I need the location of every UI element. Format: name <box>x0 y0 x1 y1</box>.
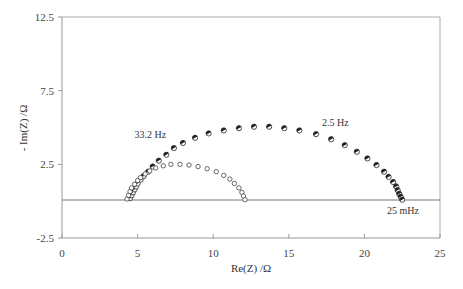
data-point <box>266 123 272 129</box>
data-point <box>147 169 151 173</box>
data-point <box>155 157 161 163</box>
data-point <box>243 197 247 201</box>
x-tick-label: 15 <box>283 247 295 259</box>
x-axis-label: Re(Z) /Ω <box>231 262 271 275</box>
data-point <box>205 167 209 171</box>
data-point <box>169 162 173 166</box>
data-point <box>312 131 318 137</box>
nyquist-chart: 12.57.52.5-2.5 0510152025 Re(Z) /Ω - Im(… <box>0 0 463 289</box>
data-point <box>341 142 347 148</box>
x-tick-label: 0 <box>59 247 65 259</box>
plot-frame <box>62 17 440 238</box>
data-point <box>129 186 133 190</box>
x-tick-label: 20 <box>359 247 371 259</box>
data-point <box>385 173 391 179</box>
data-point <box>250 123 256 129</box>
data-point <box>196 164 200 168</box>
data-point <box>154 166 158 170</box>
data-point <box>178 162 182 166</box>
data-point <box>281 125 287 131</box>
data-point <box>187 163 191 167</box>
data-points <box>125 123 405 202</box>
x-tick-label: 5 <box>135 247 141 259</box>
data-point <box>192 134 198 140</box>
data-point <box>170 145 176 151</box>
data-point <box>214 170 218 174</box>
y-tick-label: -2.5 <box>37 232 55 244</box>
y-tick-label: 7.5 <box>40 85 54 97</box>
data-point <box>228 177 232 181</box>
data-point <box>235 125 241 131</box>
y-tick-label: 12.5 <box>35 11 55 23</box>
data-point <box>205 130 211 136</box>
frequency-annotation: 2.5 Hz <box>322 117 349 128</box>
data-point <box>161 164 165 168</box>
frequency-annotation: 33.2 Hz <box>135 129 167 140</box>
data-point <box>373 162 379 168</box>
y-axis: 12.57.52.5-2.5 <box>35 11 62 244</box>
data-point <box>232 181 236 185</box>
y-tick-label: 2.5 <box>40 158 54 170</box>
data-point <box>220 127 226 133</box>
data-point <box>179 139 185 145</box>
data-point <box>132 182 136 186</box>
data-point <box>138 175 142 179</box>
data-point <box>143 172 147 176</box>
data-point <box>328 136 334 142</box>
data-point <box>364 155 370 161</box>
data-point <box>296 127 302 133</box>
data-point <box>163 151 169 157</box>
data-point <box>390 178 396 184</box>
data-point <box>237 186 241 190</box>
x-tick-label: 10 <box>208 247 220 259</box>
x-tick-label: 25 <box>435 247 447 259</box>
data-point <box>222 173 226 177</box>
data-point <box>381 168 387 174</box>
y-axis-label: - Im(Z) /Ω <box>17 105 30 152</box>
data-point <box>353 148 359 154</box>
frequency-annotation: 25 mHz <box>387 205 420 216</box>
